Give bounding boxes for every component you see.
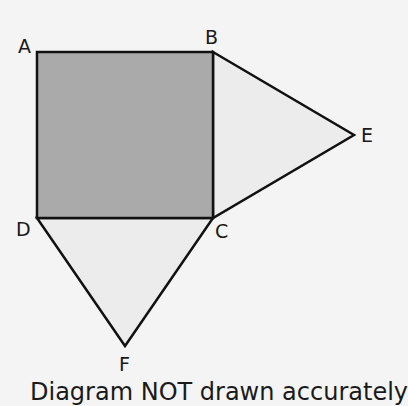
vertex-label-a: A (18, 37, 31, 56)
square-abcd (37, 52, 213, 218)
vertex-label-c: C (215, 222, 228, 241)
vertex-label-f: F (119, 355, 130, 374)
vertex-label-e: E (361, 126, 373, 145)
vertex-label-d: D (16, 220, 31, 239)
triangle-dcf (37, 218, 213, 346)
triangle-bce (213, 52, 354, 218)
diagram-caption: Diagram NOT drawn accurately (30, 380, 408, 404)
vertex-label-b: B (205, 28, 218, 47)
